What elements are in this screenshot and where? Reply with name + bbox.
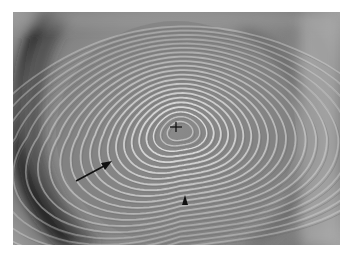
keratoscopy-image <box>13 12 340 245</box>
